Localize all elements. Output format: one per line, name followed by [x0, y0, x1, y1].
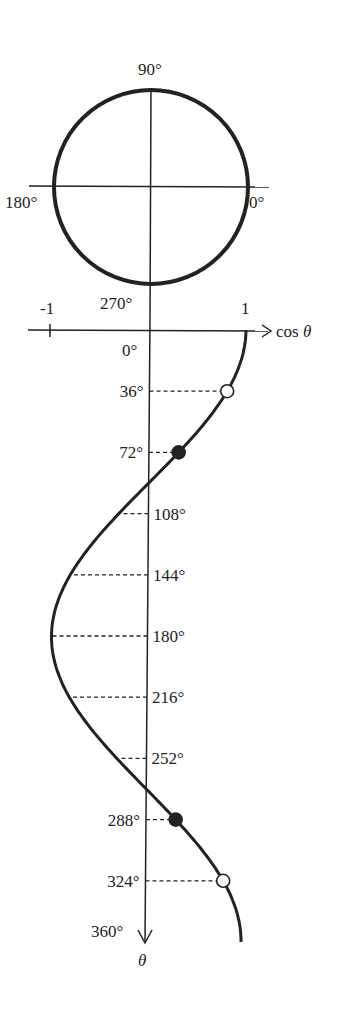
label-360: 360°	[91, 922, 123, 941]
cos-axis-group: -1 1 cos θ	[28, 299, 311, 341]
theta-axis-label: θ	[138, 951, 146, 970]
theta-axis	[145, 318, 150, 942]
sample-point-72: 72°	[119, 443, 185, 462]
filled-dot-icon	[169, 813, 182, 826]
tick-label-minus-one: -1	[40, 299, 54, 318]
sample-point-252: 252°	[117, 749, 184, 768]
open-dot-icon	[217, 874, 230, 887]
tick-label-one: 1	[241, 299, 250, 318]
label-origin-0: 0°	[122, 341, 137, 360]
open-dot-icon	[221, 385, 234, 398]
angle-label: 288°	[108, 811, 140, 830]
sample-point-36: 36°	[120, 382, 234, 401]
unit-circle-group: 90° 180° 0° 270°	[5, 60, 269, 318]
circle-vertical-axis	[150, 89, 151, 318]
sample-point-108: 108°	[119, 505, 186, 524]
cos-axis	[28, 330, 268, 331]
diagram-canvas: 90° 180° 0° 270° -1 1 cos θ θ 0° 360° 36…	[0, 0, 347, 1015]
filled-dot-icon	[172, 446, 185, 459]
angle-label: 72°	[119, 443, 143, 462]
angle-label: 108°	[154, 505, 186, 524]
label-0: 0°	[249, 193, 264, 212]
sample-points: 36°72°108°144°180°216°252°288°324°	[52, 382, 234, 891]
angle-label: 324°	[107, 872, 139, 891]
angle-label: 180°	[153, 627, 185, 646]
angle-label: 216°	[152, 688, 184, 707]
label-90: 90°	[138, 60, 162, 79]
angle-label: 144°	[153, 566, 185, 585]
angle-label: 252°	[152, 749, 184, 768]
sample-point-180: 180°	[52, 627, 185, 646]
circle-horizontal-axis	[29, 186, 269, 187]
label-270: 270°	[100, 294, 132, 313]
cos-axis-label: cos θ	[276, 322, 311, 341]
sample-point-216: 216°	[69, 688, 184, 707]
label-180: 180°	[5, 193, 37, 212]
angle-label: 36°	[120, 382, 144, 401]
sample-point-324: 324°	[107, 872, 229, 891]
sample-point-144: 144°	[70, 566, 185, 585]
